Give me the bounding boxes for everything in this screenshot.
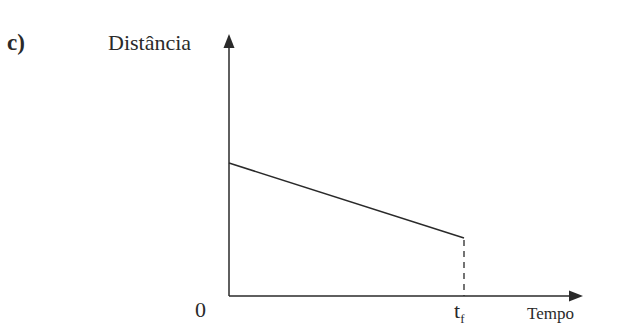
chart-plot	[0, 0, 620, 332]
x-axis-arrow-icon	[569, 291, 583, 302]
y-axis-arrow-icon	[224, 34, 235, 48]
distance-line	[229, 163, 464, 238]
